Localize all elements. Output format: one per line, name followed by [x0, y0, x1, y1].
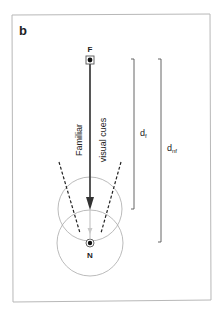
- near-marker-dot-icon: [88, 241, 92, 245]
- diagram-figure: b F N Familiar visual cues df dnf: [0, 0, 223, 314]
- familiar-label: Familiar: [74, 124, 84, 156]
- far-marker-dot-icon: [88, 58, 93, 63]
- near-point-label: N: [87, 251, 93, 260]
- far-point-label: F: [88, 45, 93, 54]
- panel-label: b: [19, 23, 27, 38]
- d-nf-subscript: nf: [172, 148, 177, 154]
- panel-frame: [12, 14, 211, 302]
- visual-cues-label: visual cues: [98, 117, 108, 162]
